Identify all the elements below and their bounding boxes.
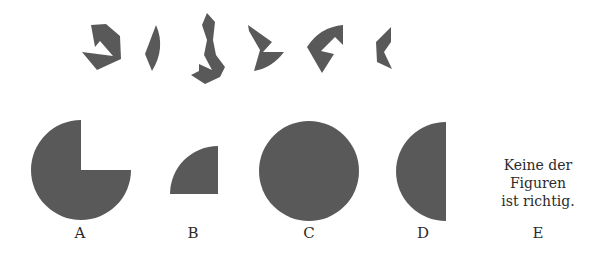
option-a-shape bbox=[31, 120, 131, 220]
puzzle-pieces bbox=[82, 13, 392, 84]
option-e-line-3: ist richtig. bbox=[483, 192, 593, 210]
piece-3 bbox=[191, 13, 225, 84]
piece-1 bbox=[82, 24, 121, 70]
option-e-label[interactable]: E bbox=[533, 226, 544, 241]
piece-2 bbox=[145, 25, 160, 71]
option-e-line-2: Figuren bbox=[483, 174, 593, 192]
option-c-label[interactable]: C bbox=[303, 226, 314, 241]
option-b-label[interactable]: B bbox=[187, 226, 198, 241]
piece-6 bbox=[376, 27, 392, 69]
option-d-shape bbox=[396, 122, 446, 221]
option-e-line-1: Keine der bbox=[483, 156, 593, 174]
piece-4 bbox=[248, 25, 284, 71]
option-c-shape bbox=[259, 121, 359, 221]
option-d-label[interactable]: D bbox=[417, 226, 429, 241]
piece-5 bbox=[307, 25, 343, 73]
option-b-shape bbox=[170, 146, 218, 194]
figure-canvas bbox=[0, 0, 606, 255]
option-a-label[interactable]: A bbox=[75, 226, 86, 241]
option-e-text: Keine der Figuren ist richtig. bbox=[483, 156, 593, 210]
